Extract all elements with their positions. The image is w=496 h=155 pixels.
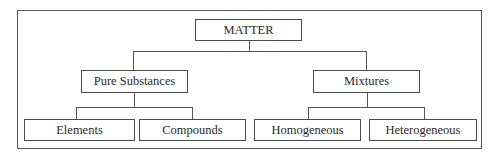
node-mixtures-label: Mixtures (344, 74, 389, 89)
connector-mixtures-stem (367, 93, 368, 108)
node-elements-label: Elements (56, 123, 103, 138)
node-homogeneous-label: Homogeneous (271, 123, 343, 138)
node-elements: Elements (24, 119, 135, 141)
node-homogeneous: Homogeneous (254, 119, 361, 141)
node-pure-substances: Pure Substances (81, 70, 188, 93)
node-compounds: Compounds (139, 119, 246, 141)
connector-to-elements (76, 107, 77, 119)
connector-matter-branch (133, 51, 367, 52)
connector-pure-substances-stem (134, 93, 135, 108)
connector-to-pure-substances (133, 51, 134, 70)
connector-to-heterogeneous (424, 107, 425, 119)
node-matter-label: MATTER (224, 23, 274, 38)
node-mixtures: Mixtures (313, 70, 420, 93)
connector-to-mixtures (366, 51, 367, 70)
connector-mixtures-branch (308, 107, 425, 108)
connector-pure-substances-branch (76, 107, 193, 108)
node-matter: MATTER (195, 19, 302, 41)
connector-to-homogeneous (308, 107, 309, 119)
node-pure-substances-label: Pure Substances (94, 74, 176, 89)
node-heterogeneous-label: Heterogeneous (386, 123, 461, 138)
connector-to-compounds (192, 107, 193, 119)
node-compounds-label: Compounds (162, 123, 222, 138)
node-heterogeneous: Heterogeneous (369, 119, 477, 141)
